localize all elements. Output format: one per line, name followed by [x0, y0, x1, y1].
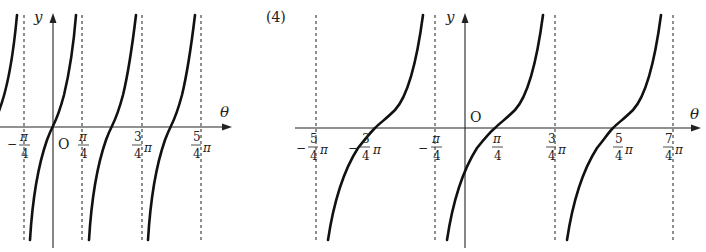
part-label: (4)	[266, 9, 286, 25]
svg-text:π: π	[78, 130, 88, 144]
svg-text:7: 7	[665, 132, 673, 146]
svg-text:π: π	[372, 143, 382, 157]
svg-text:−: −	[348, 141, 358, 155]
svg-text:π: π	[624, 143, 634, 157]
tangent-graphs-figure: y θ O − π 4 π 4 3 4 π 5 4 π	[0, 0, 706, 252]
tick-label-5-4-pi: 5 4 π	[191, 130, 212, 161]
svg-text:4: 4	[21, 147, 29, 161]
svg-text:π: π	[674, 143, 684, 157]
right-graph: (4) y θ O − 5 4 π − 3 4	[266, 8, 701, 248]
svg-text:4: 4	[665, 149, 673, 163]
svg-text:π: π	[557, 143, 567, 157]
svg-text:4: 4	[310, 149, 318, 163]
svg-text:3: 3	[548, 132, 556, 146]
svg-text:π: π	[202, 141, 212, 155]
origin-label: O	[58, 136, 69, 152]
svg-text:4: 4	[193, 147, 201, 161]
svg-text:π: π	[319, 143, 329, 157]
tangent-branch	[0, 15, 17, 120]
tick-label-3-4-pi: 3 4 π	[132, 130, 153, 161]
tick-label-neg-pi-4: − π 4	[418, 132, 442, 163]
y-axis-label: y	[445, 8, 455, 26]
left-graph: y θ O − π 4 π 4 3 4 π 5 4 π	[0, 8, 232, 248]
svg-text:π: π	[19, 130, 29, 144]
svg-text:π: π	[431, 132, 441, 146]
svg-text:π: π	[143, 141, 153, 155]
svg-text:4: 4	[134, 147, 142, 161]
svg-text:4: 4	[433, 149, 441, 163]
x-axis-label: θ	[690, 105, 699, 123]
svg-text:5: 5	[193, 130, 201, 144]
tick-label-neg-pi-4: − π 4	[7, 130, 30, 161]
x-axis-arrow-icon	[222, 124, 232, 131]
svg-text:4: 4	[80, 147, 88, 161]
svg-text:5: 5	[615, 132, 623, 146]
svg-text:π: π	[492, 132, 502, 146]
svg-text:4: 4	[362, 149, 370, 163]
svg-text:4: 4	[615, 149, 623, 163]
svg-text:5: 5	[310, 132, 318, 146]
y-axis-arrow-icon	[50, 13, 57, 23]
tick-label-pi-4: π 4	[492, 132, 503, 163]
svg-text:3: 3	[134, 130, 142, 144]
svg-text:−: −	[418, 141, 428, 155]
svg-text:3: 3	[362, 132, 370, 146]
svg-text:4: 4	[548, 149, 556, 163]
x-axis-arrow-icon	[691, 125, 701, 132]
y-axis-label: y	[33, 8, 43, 26]
x-axis-label: θ	[220, 103, 229, 121]
tick-label-5-4-pi: 5 4 π	[613, 132, 634, 163]
tick-label-pi-4: π 4	[78, 130, 89, 161]
origin-label: O	[470, 109, 481, 125]
tick-label-3-4-pi: 3 4 π	[546, 132, 567, 163]
svg-text:−: −	[7, 137, 17, 151]
tick-label-neg-5-4-pi: − 5 4 π	[296, 132, 329, 163]
y-axis-arrow-icon	[462, 13, 469, 23]
svg-text:4: 4	[494, 149, 502, 163]
svg-text:−: −	[296, 141, 306, 155]
